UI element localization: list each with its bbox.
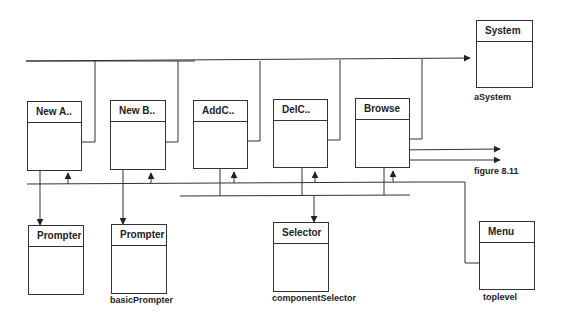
- object-title: Prompter: [112, 225, 166, 246]
- object-title: Selector: [274, 223, 328, 244]
- object-title: Prompter: [29, 226, 83, 247]
- object-addc[interactable]: AddC..: [193, 100, 248, 169]
- figure-reference: figure 8.11: [474, 166, 519, 176]
- object-name-toplevel: toplevel: [483, 292, 517, 302]
- object-title: AddC..: [194, 101, 247, 122]
- object-basic-prompter[interactable]: Prompter: [111, 224, 167, 294]
- object-selector[interactable]: Selector: [273, 222, 329, 292]
- object-name-componentselector: componentSelector: [272, 293, 356, 303]
- object-title: DelC..: [274, 100, 327, 121]
- object-delc[interactable]: DelC..: [273, 99, 328, 168]
- object-title: New A..: [28, 102, 81, 123]
- object-system[interactable]: System: [476, 20, 533, 88]
- object-name-asystem: aSystem: [474, 92, 511, 102]
- object-menu[interactable]: Menu: [479, 221, 535, 290]
- object-new-a[interactable]: New A..: [27, 101, 82, 171]
- object-title: Menu: [480, 222, 534, 243]
- object-title: New B..: [111, 101, 165, 122]
- object-browse[interactable]: Browse: [355, 98, 410, 168]
- object-title: System: [477, 21, 532, 42]
- object-title: Browse: [356, 99, 409, 120]
- object-prompter[interactable]: Prompter: [28, 225, 84, 295]
- object-name-basicprompter: basicPrompter: [110, 295, 173, 305]
- object-new-b[interactable]: New B..: [110, 100, 166, 170]
